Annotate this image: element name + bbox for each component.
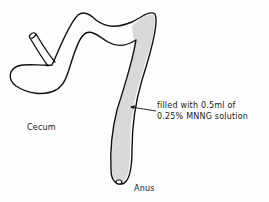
ileum-opening	[28, 32, 36, 39]
diagram-canvas: Cecum Anus filled with 0.5ml of 0.25% MN…	[0, 0, 269, 202]
label-cecum: Cecum	[27, 123, 56, 133]
anus-opening	[116, 180, 122, 184]
mnng-filled-region	[112, 15, 155, 182]
annotation-line-2: 0.25% MNNG solution	[157, 112, 248, 123]
label-anus: Anus	[134, 184, 155, 194]
mnng-annotation: filled with 0.5ml of 0.25% MNNG solution	[157, 101, 248, 122]
ileum-stub	[30, 34, 55, 66]
annotation-line-1: filled with 0.5ml of	[157, 101, 248, 112]
